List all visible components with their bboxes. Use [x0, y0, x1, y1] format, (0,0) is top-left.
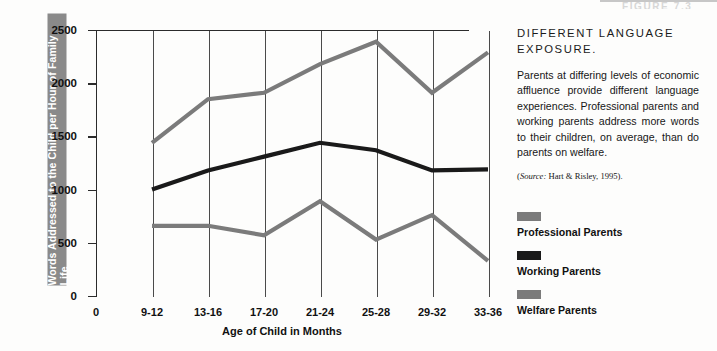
legend-label: Professional Parents — [517, 226, 699, 238]
plot-area — [96, 30, 469, 297]
gridline-17-20 — [265, 31, 266, 297]
legend-item-welfare-parents: Welfare Parents — [517, 290, 699, 316]
legend-label: Working Parents — [517, 265, 699, 277]
y-tick-0 — [88, 296, 96, 297]
caption-block: DIFFERENT LANGUAGE EXPOSURE. Parents at … — [517, 25, 699, 181]
y-tick-500 — [88, 243, 96, 244]
chart-panel: Words Addressed to the Child per Hour of… — [0, 0, 490, 351]
gridline-13-16 — [209, 31, 210, 297]
legend-swatch-icon — [517, 212, 541, 221]
y-tick-2000 — [88, 83, 96, 84]
caption-body: Parents at differing levels of economic … — [517, 68, 699, 160]
gridline-21-24 — [321, 31, 322, 297]
x-axis-title: Age of Child in Months — [222, 325, 342, 337]
x-tick-label-33-36: 33-36 — [474, 306, 502, 318]
gridline-29-32 — [433, 31, 434, 297]
x-tick-label-13-16: 13-16 — [194, 306, 222, 318]
y-tick-label-2500: 2500 — [0, 24, 77, 36]
gridline-33-36 — [489, 31, 490, 297]
x-tick-label-17-20: 17-20 — [250, 306, 278, 318]
x-tick-label-9-12: 9-12 — [141, 306, 163, 318]
gridline-25-28 — [377, 31, 378, 297]
legend-swatch-icon — [517, 251, 541, 260]
caption-source: (Source: Hart & Risley, 1995). — [517, 171, 699, 181]
y-tick-1000 — [88, 190, 96, 191]
x-tick-label-21-24: 21-24 — [306, 306, 334, 318]
y-tick-label-0: 0 — [0, 290, 77, 302]
legend-label: Welfare Parents — [517, 304, 699, 316]
x-tick-label-29-32: 29-32 — [418, 306, 446, 318]
legend-swatch-icon — [517, 290, 541, 299]
legend-item-professional-parents: Professional Parents — [517, 212, 699, 238]
y-tick-2500 — [88, 30, 96, 31]
y-tick-label-1000: 1000 — [0, 184, 77, 196]
chart-legend: Professional ParentsWorking ParentsWelfa… — [517, 212, 699, 329]
caption-title: DIFFERENT LANGUAGE EXPOSURE. — [517, 25, 699, 57]
y-tick-label-500: 500 — [0, 237, 77, 249]
caption-source-label: Source: — [520, 171, 546, 181]
gridline-9-12 — [153, 31, 154, 297]
caption-source-text: Hart & Risley, 1995). — [546, 171, 622, 181]
y-tick-label-1500: 1500 — [0, 130, 77, 142]
x-axis-origin-label: 0 — [93, 306, 99, 318]
x-tick-label-25-28: 25-28 — [362, 306, 390, 318]
y-tick-label-2000: 2000 — [0, 77, 77, 89]
y-tick-1500 — [88, 136, 96, 137]
legend-item-working-parents: Working Parents — [517, 251, 699, 277]
figure-header-label: FIGURE 7.3 — [622, 1, 692, 9]
figure-header: FIGURE 7.3 — [600, 0, 717, 9]
